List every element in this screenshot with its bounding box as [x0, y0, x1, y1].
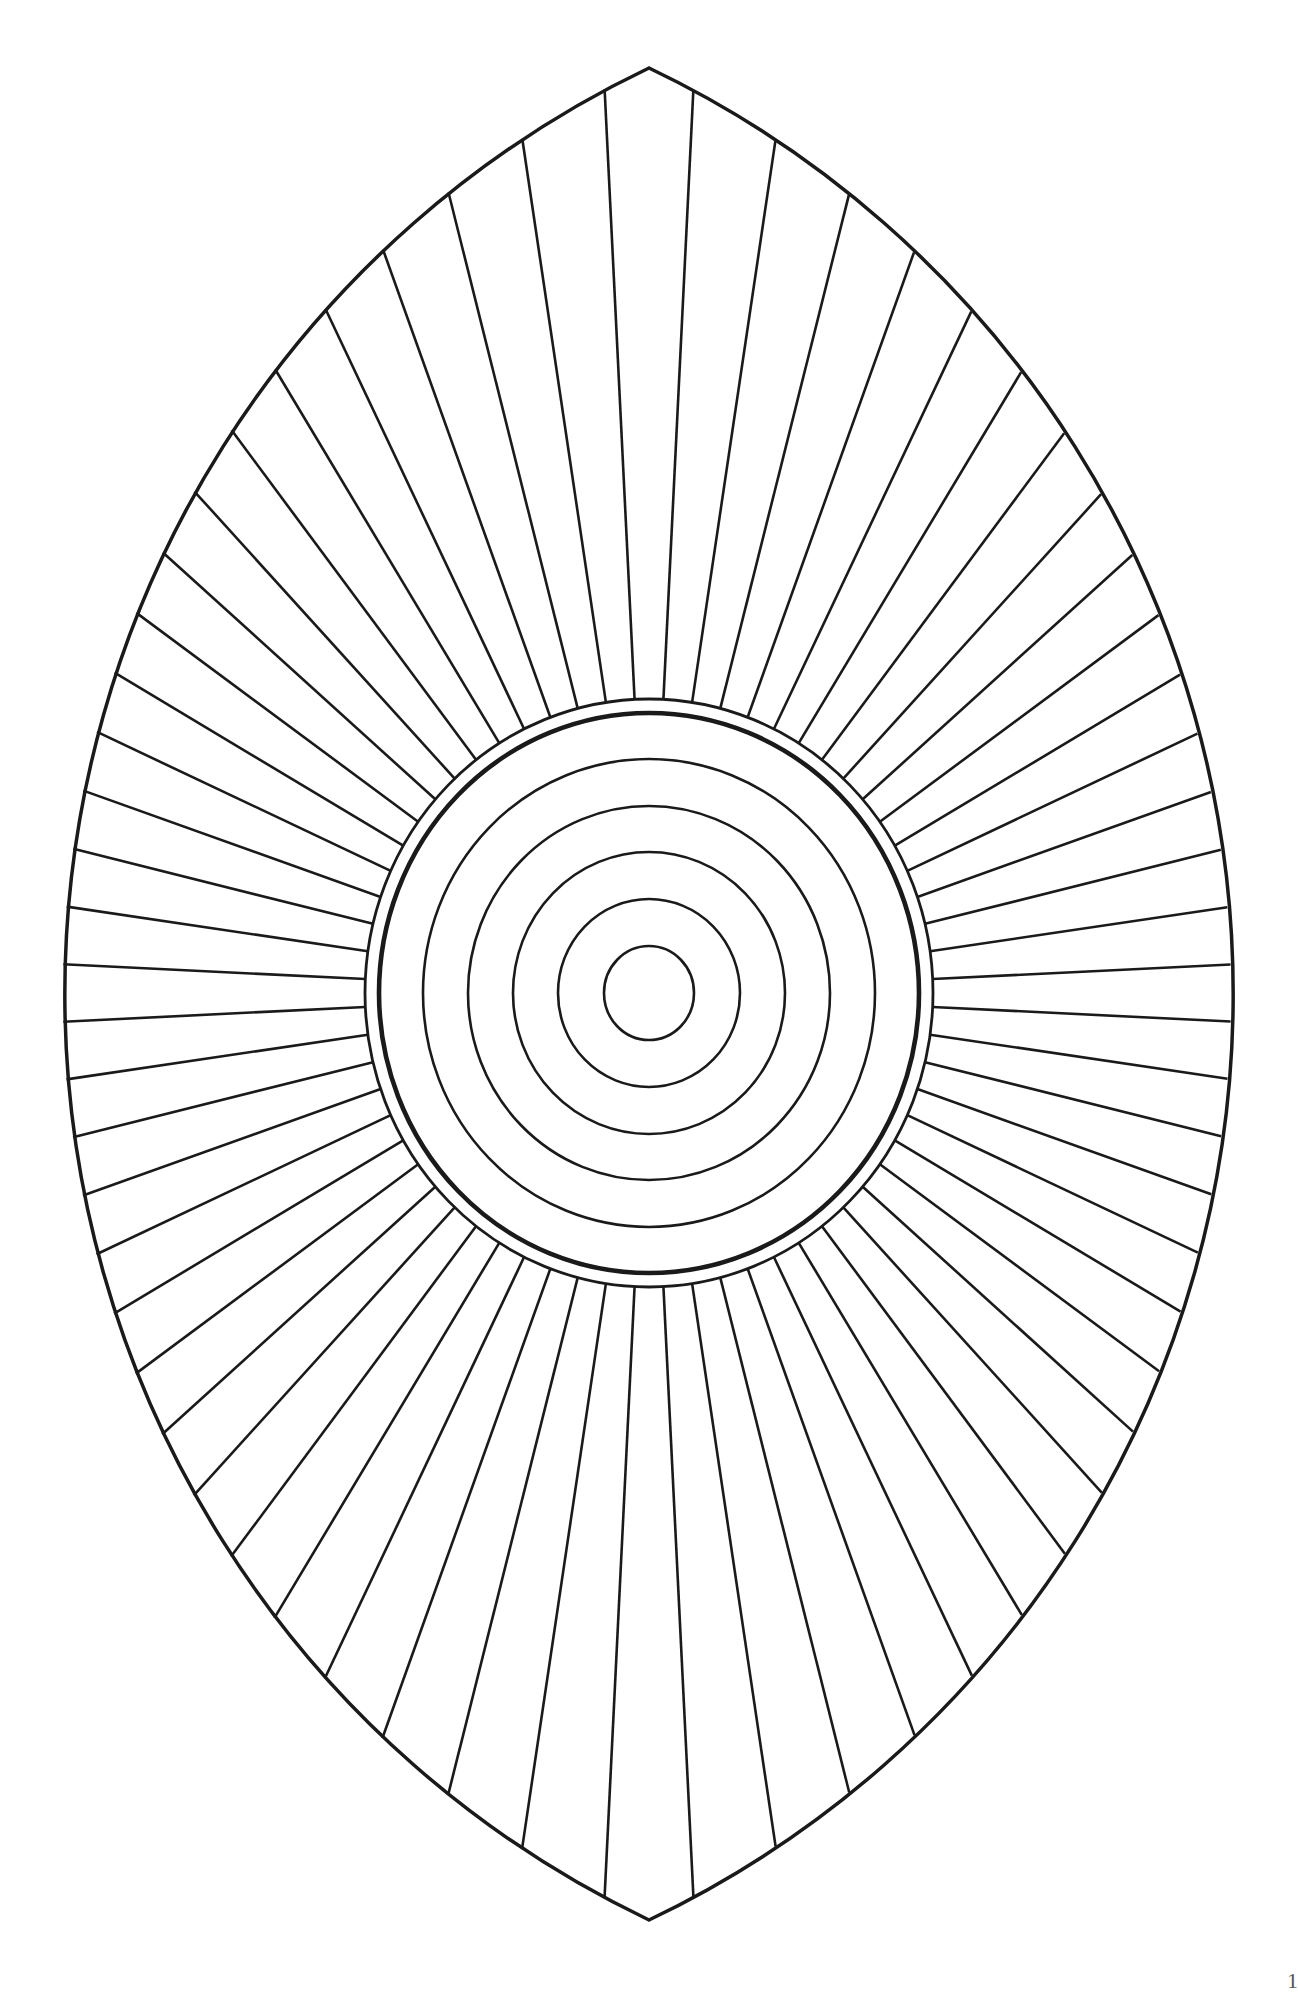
ray	[930, 1035, 1227, 1079]
ring-7	[365, 699, 933, 1287]
ray	[843, 1207, 1101, 1492]
ray	[925, 1062, 1221, 1136]
ray	[843, 494, 1101, 778]
ray	[907, 734, 1197, 871]
ray	[720, 1278, 849, 1793]
ray	[692, 1284, 776, 1847]
concentric-rings	[365, 699, 933, 1287]
ray	[162, 1187, 435, 1435]
ray	[720, 195, 849, 708]
ray	[663, 1287, 693, 1897]
ray	[933, 1007, 1231, 1022]
ray	[73, 849, 373, 924]
ray	[448, 1278, 578, 1796]
ray	[605, 90, 635, 700]
ray	[895, 675, 1180, 846]
ray	[97, 1115, 391, 1254]
ray	[63, 1007, 365, 1022]
ray	[194, 1207, 455, 1495]
ring-3	[513, 852, 785, 1134]
ray	[522, 1284, 606, 1850]
vesica-outline	[65, 68, 1233, 1920]
ray	[73, 1062, 373, 1137]
page-number: 1	[1287, 1970, 1298, 1992]
ray	[136, 1164, 418, 1373]
ray	[907, 1115, 1198, 1252]
radial-rays	[63, 90, 1230, 1899]
ray	[194, 492, 454, 779]
ring-1	[604, 946, 694, 1040]
ray	[925, 850, 1221, 924]
ray	[63, 964, 365, 979]
ring-2	[558, 899, 740, 1087]
ray	[933, 964, 1231, 979]
ray	[163, 552, 435, 799]
ray	[115, 673, 404, 846]
ray	[274, 1243, 499, 1618]
ray	[880, 615, 1159, 822]
ray	[67, 907, 368, 952]
ray	[136, 613, 418, 822]
ring-5	[423, 759, 875, 1227]
ray	[863, 1187, 1133, 1432]
ray	[692, 141, 775, 702]
ray	[448, 192, 577, 708]
ray	[799, 1243, 1022, 1615]
ray	[522, 139, 606, 703]
ray	[275, 369, 499, 743]
ray	[605, 1287, 635, 1899]
ray	[97, 732, 391, 871]
ring-4	[468, 806, 830, 1180]
ring-6	[379, 713, 919, 1273]
ray	[880, 1164, 1159, 1371]
ray	[114, 1140, 403, 1313]
ray	[863, 555, 1133, 799]
ray	[663, 92, 693, 700]
ray	[67, 1035, 368, 1080]
ray	[930, 907, 1227, 951]
ray	[895, 1140, 1181, 1311]
